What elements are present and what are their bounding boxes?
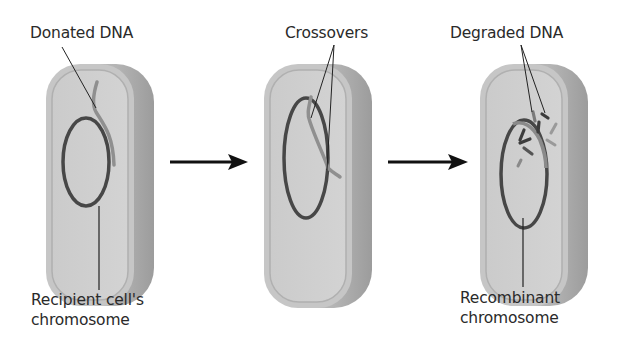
label-recombinant-chromosome-line2: chromosome xyxy=(460,309,559,328)
label-degraded-dna: Degraded DNA xyxy=(450,24,563,43)
transformation-diagram: Donated DNA Recipient cell's chromosome … xyxy=(0,0,623,355)
arrow-1-to-2 xyxy=(170,154,248,170)
cell-2 xyxy=(264,64,372,308)
label-crossovers: Crossovers xyxy=(285,24,368,43)
label-recipient-chromosome-line1: Recipient cell's xyxy=(31,291,144,310)
label-donated-dna: Donated DNA xyxy=(30,24,133,43)
label-recipient-chromosome-line2: chromosome xyxy=(31,311,130,330)
cell-1 xyxy=(46,64,154,306)
cell-3 xyxy=(480,64,588,306)
arrow-2-to-3 xyxy=(388,154,468,170)
label-recombinant-chromosome-line1: Recombinant xyxy=(460,289,560,308)
